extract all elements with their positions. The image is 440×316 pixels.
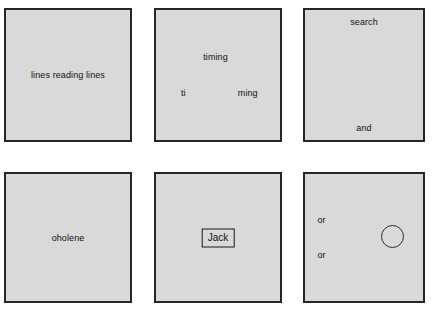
panel-2-label-left: ti	[181, 88, 186, 99]
panel-3-label-top: search	[350, 16, 378, 27]
panel-6-label-second: or	[317, 250, 325, 261]
panel-2-label-top: timing	[203, 51, 228, 62]
panel-5-boxed-label[interactable]: Jack	[202, 228, 235, 247]
panel-1-label: lines reading lines	[31, 70, 105, 81]
canvas: lines reading lines timing ti ming searc…	[0, 0, 440, 316]
panel-5-boxed-label-text: Jack	[208, 231, 229, 243]
panel-6[interactable]: or or	[303, 172, 425, 303]
panel-6-label-first: or	[317, 214, 325, 225]
panel-4-label: oholene	[52, 232, 85, 243]
panel-5[interactable]: Jack	[154, 172, 282, 303]
panel-3[interactable]: search and	[303, 8, 425, 142]
panel-1[interactable]: lines reading lines	[4, 8, 132, 142]
panel-2-label-right: ming	[238, 88, 258, 99]
panel-3-label-bottom: and	[356, 123, 371, 134]
circle-outline-icon	[381, 225, 404, 248]
panel-2[interactable]: timing ti ming	[154, 8, 282, 142]
panel-4[interactable]: oholene	[4, 172, 132, 303]
